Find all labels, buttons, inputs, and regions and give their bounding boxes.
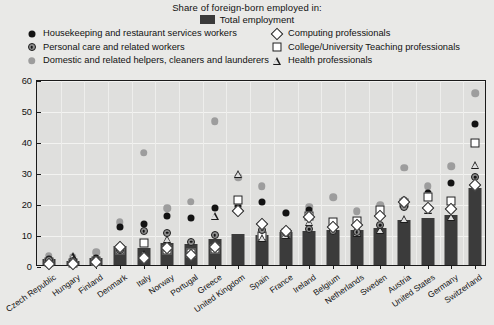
plot-area: 0102030405060 [36,80,486,266]
legend-title: Share of foreign-born employed in: [0,2,494,13]
data-column [369,81,393,265]
open-triangle-icon [271,55,282,66]
legend-label-housekeeping: Housekeeping and restaurant services wor… [43,28,237,39]
x-axis-tick [120,265,121,269]
x-axis-label: France [267,272,294,295]
y-axis-tick-label: 40 [22,138,32,148]
data-column [321,81,345,265]
bar-total-employment [421,218,434,265]
legend-label-domestic: Domestic and related helpers, cleaners a… [43,55,269,66]
x-axis-tick [215,265,216,269]
y-axis-tick [37,267,41,268]
x-axis-tick [191,265,192,269]
x-axis-tick [333,265,334,269]
y-axis-tick-label: 50 [22,107,32,117]
data-column [274,81,298,265]
legend-column-left: Housekeeping and restaurant services wor… [26,28,269,66]
data-column [345,81,369,265]
legend-item-health: Health professionals [271,55,486,66]
x-axis-tick [144,265,145,269]
data-column [416,81,440,265]
bar-total-employment [469,188,482,265]
x-axis-tick [451,265,452,269]
data-column [298,81,322,265]
data-column [179,81,203,265]
bar-total-employment [445,215,458,265]
bar-total-employment [327,230,340,265]
legend-label-college: College/University Teaching professional… [288,42,460,53]
y-axis-tick-label: 60 [22,76,32,86]
x-axis-tick [262,265,263,269]
x-axis-tick [286,265,287,269]
bar-total-employment [232,234,245,265]
data-column [61,81,85,265]
x-axis-tick [238,265,239,269]
x-axis-label: Czech Republic [4,272,58,314]
legend-item-personal-care: Personal care and related workers [26,42,269,53]
legend: Housekeeping and restaurant services wor… [26,28,486,66]
data-column [108,81,132,265]
data-column [440,81,464,265]
data-column [132,81,156,265]
x-axis-tick [428,265,429,269]
data-column [37,81,61,265]
legend-column-right: Computing professionals College/Universi… [271,28,486,66]
y-axis-tick-label: 30 [22,169,32,179]
x-axis-labels: Czech RepublicHungaryFinlandDenmarkItaly… [36,272,486,324]
data-column [250,81,274,265]
data-column [463,81,487,265]
chart-figure: Share of foreign-born employed in: Total… [0,0,494,325]
legend-item-college: College/University Teaching professional… [271,42,486,53]
legend-total-employment: Total employment [0,14,494,25]
y-axis-tick-label: 10 [22,231,32,241]
x-axis-tick [404,265,405,269]
x-axis-tick [380,265,381,269]
bar-swatch-icon [200,15,215,24]
data-column [155,81,179,265]
legend-item-domestic: Domestic and related helpers, cleaners a… [26,55,269,66]
x-axis-tick [167,265,168,269]
filled-circle-black-icon [26,28,37,39]
y-axis-tick-label: 0 [27,262,32,272]
data-column [203,81,227,265]
legend-item-housekeeping: Housekeeping and restaurant services wor… [26,28,269,39]
open-diamond-icon [271,28,282,39]
bar-total-employment [398,220,411,265]
x-axis-tick [475,265,476,269]
data-column [392,81,416,265]
legend-label-personal-care: Personal care and related workers [43,42,185,53]
data-column [84,81,108,265]
data-column [226,81,250,265]
bar-total-employment [303,231,316,265]
x-axis-tick [309,265,310,269]
legend-total-label: Total employment [220,14,294,25]
legend-item-computing: Computing professionals [271,28,486,39]
x-axis-label: Spain [247,272,270,292]
legend-label-health: Health professionals [288,55,372,66]
filled-circle-gray-icon [26,55,37,66]
legend-label-computing: Computing professionals [288,28,390,39]
x-axis-tick [357,265,358,269]
bullseye-circle-icon [26,42,37,53]
y-axis-tick-label: 20 [22,200,32,210]
open-square-icon [271,42,282,53]
plot-wrapper: 0102030405060 [36,80,486,266]
